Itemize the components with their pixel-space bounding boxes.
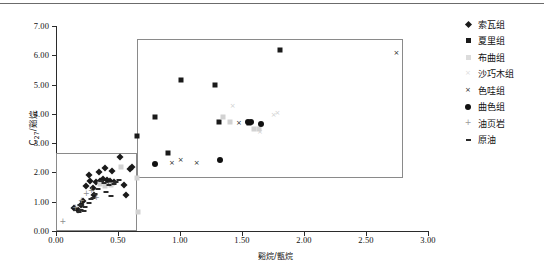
- upper-right-field: [137, 39, 404, 178]
- x-tick-label: 2.00: [296, 235, 311, 245]
- legend-item[interactable]: ×色哇组: [462, 82, 542, 99]
- y-tick-label: 5.00: [34, 80, 49, 90]
- legend-item-label: 夏里组: [478, 34, 505, 47]
- data-point: [220, 115, 225, 120]
- y-tick-label: 0.00: [34, 226, 49, 236]
- x-tick-label: 0.00: [48, 235, 63, 245]
- legend-marker-plus-icon: +: [462, 117, 474, 129]
- data-point: [258, 121, 264, 127]
- data-point: [114, 181, 119, 183]
- x-axis-title: 谿烷/甑烷: [258, 250, 293, 261]
- data-point: [81, 210, 86, 212]
- data-point: [277, 48, 282, 53]
- legend-item[interactable]: 夏里组: [462, 33, 542, 50]
- y-tick-mark: [52, 143, 57, 144]
- data-point: [217, 157, 223, 163]
- y-tick-label: 3.00: [34, 138, 49, 148]
- data-point: [106, 184, 111, 186]
- chart-page: C27/谿烷 谿烷/甑烷 0.001.002.003.004.005.006.0…: [0, 0, 544, 274]
- data-point: [116, 179, 121, 181]
- legend-item[interactable]: 原油: [462, 132, 542, 149]
- data-point: +: [60, 219, 66, 225]
- legend-item-label: 原油: [478, 133, 496, 146]
- plot-area: 0.001.002.003.004.005.006.007.00 0.000.5…: [56, 26, 428, 231]
- y-tick-label: 6.00: [34, 50, 49, 60]
- x-tick-label: 3.00: [420, 235, 435, 245]
- data-point: [119, 165, 124, 170]
- data-point: [178, 78, 183, 83]
- y-tick-mark: [52, 114, 57, 115]
- legend-marker-circle-icon: [462, 101, 474, 113]
- legend-item-label: 索瓦组: [478, 18, 505, 31]
- data-point: [152, 115, 157, 120]
- legend-marker-cross-icon: ×: [462, 84, 474, 96]
- data-point: ×: [393, 51, 399, 57]
- data-point: [89, 198, 94, 200]
- y-tick-label: 2.00: [34, 167, 49, 177]
- data-point: ×: [257, 129, 263, 135]
- data-point: ×: [178, 158, 184, 164]
- data-point: ×: [230, 104, 236, 110]
- data-point: [78, 204, 83, 206]
- legend-item[interactable]: 索瓦组: [462, 16, 542, 33]
- data-point: [166, 150, 171, 155]
- data-point: [135, 176, 140, 181]
- legend: 索瓦组夏里组布曲组×沙巧木组×色哇组曲色组+油页岩原油: [462, 16, 542, 148]
- data-point: [152, 161, 158, 167]
- legend-marker-square-icon: [462, 35, 474, 47]
- x-tick-label: 2.50: [358, 235, 373, 245]
- data-point: ×: [274, 110, 280, 116]
- data-point: [93, 193, 98, 195]
- data-point: [95, 188, 100, 190]
- legend-item[interactable]: +油页岩: [462, 115, 542, 132]
- y-tick-label: 1.00: [34, 197, 49, 207]
- data-point: ×: [194, 160, 200, 166]
- legend-marker-diamond-icon: [462, 18, 474, 30]
- data-point: [136, 209, 141, 214]
- data-point: [109, 195, 114, 197]
- data-point: [90, 197, 95, 199]
- data-point: [213, 83, 218, 88]
- x-tick-label: 1.50: [234, 235, 249, 245]
- y-tick-mark: [52, 55, 57, 56]
- data-point: [104, 191, 109, 193]
- y-tick-mark: [52, 85, 57, 86]
- x-tick-label: 0.50: [110, 235, 125, 245]
- legend-item-label: 沙巧木组: [478, 67, 514, 80]
- legend-item-label: 油页岩: [478, 117, 505, 130]
- legend-item[interactable]: 曲色组: [462, 99, 542, 116]
- data-point: ×: [236, 121, 242, 127]
- legend-marker-square-light-icon: [462, 51, 474, 63]
- legend-item-label: 曲色组: [478, 100, 505, 113]
- legend-item-label: 色哇组: [478, 84, 505, 97]
- data-point: ×: [169, 160, 175, 166]
- header-rule: [0, 3, 544, 4]
- y-tick-label: 4.00: [34, 109, 49, 119]
- y-tick-mark: [52, 26, 57, 27]
- legend-item[interactable]: ×沙巧木组: [462, 66, 542, 83]
- data-point: [86, 202, 91, 204]
- data-point: [217, 120, 222, 125]
- data-point: [228, 120, 233, 125]
- data-point: [135, 133, 140, 138]
- y-tick-label: 7.00: [34, 21, 49, 31]
- legend-marker-dash-icon: [462, 134, 474, 146]
- legend-item-label: 布曲组: [478, 51, 505, 64]
- x-tick-label: 1.00: [172, 235, 187, 245]
- legend-item[interactable]: 布曲组: [462, 49, 542, 66]
- legend-marker-cross-light-icon: ×: [462, 68, 474, 80]
- data-point: [248, 119, 254, 125]
- data-point: [83, 206, 88, 208]
